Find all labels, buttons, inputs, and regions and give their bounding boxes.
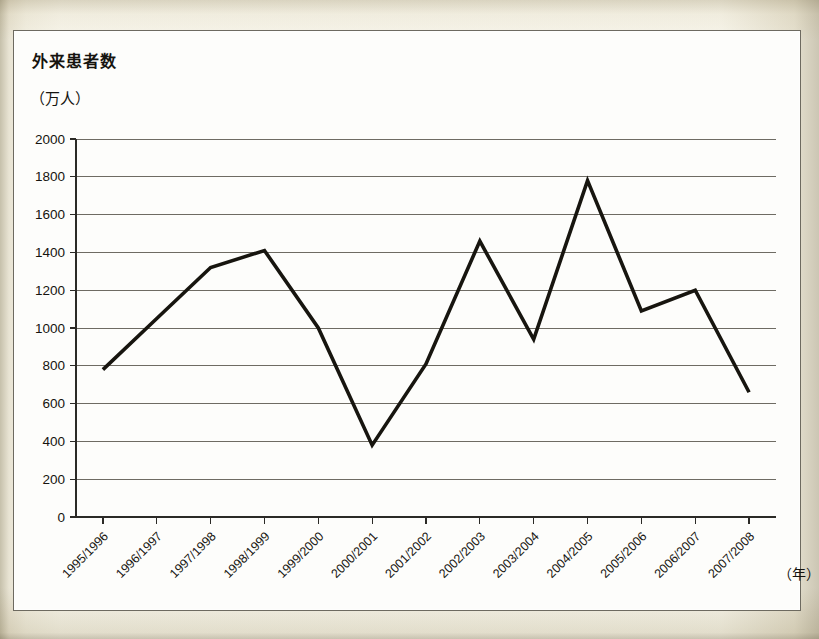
x-tick-label: 1999/2000: [275, 529, 327, 581]
x-tick-label: 2003/2004: [490, 529, 542, 581]
y-tick-label: 1600: [35, 207, 65, 222]
x-axis-unit-label: （年）: [778, 566, 819, 582]
line-chart: 0200400600800100012001400160018002000199…: [14, 31, 800, 610]
y-tick-label: 1400: [35, 245, 65, 260]
x-tick-label: 2001/2002: [382, 529, 434, 581]
plot-area: 0200400600800100012001400160018002000199…: [14, 31, 800, 610]
y-tick-label: 200: [42, 472, 65, 487]
x-tick-label: 1995/1996: [59, 529, 111, 581]
y-tick-label: 600: [42, 396, 65, 411]
data-line-series: [103, 181, 749, 446]
x-tick-label: 2006/2007: [652, 529, 704, 581]
y-tick-label: 2000: [35, 132, 65, 147]
x-tick-label: 1996/1997: [113, 529, 165, 581]
x-tick-label: 1997/1998: [167, 529, 219, 581]
screenshot-page: 外来患者数 （万人） 02004006008001000120014001600…: [0, 0, 819, 639]
x-tick-label: 1998/1999: [221, 529, 273, 581]
y-tick-label: 1000: [35, 321, 65, 336]
y-tick-label: 1800: [35, 169, 65, 184]
y-tick-label: 400: [42, 434, 65, 449]
x-tick-label: 2004/2005: [544, 529, 596, 581]
y-tick-label: 800: [42, 358, 65, 373]
x-tick-label: 2007/2008: [706, 529, 758, 581]
x-tick-label: 2005/2006: [598, 529, 650, 581]
y-tick-label: 0: [57, 510, 65, 525]
x-tick-label: 2002/2003: [436, 529, 488, 581]
figure-panel: 外来患者数 （万人） 02004006008001000120014001600…: [13, 30, 801, 611]
x-tick-label: 2000/2001: [329, 529, 381, 581]
y-tick-label: 1200: [35, 283, 65, 298]
